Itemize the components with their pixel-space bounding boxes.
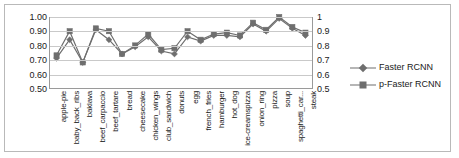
x-axis-tick-label: egg: [191, 91, 200, 104]
x-axis-tick-label: french_fries: [204, 91, 213, 130]
data-point-marker: [290, 24, 295, 29]
square-marker-icon: [350, 80, 376, 90]
x-axis-category-labels: apple-piebaby_back_ribsbaklavabeef_carpa…: [49, 91, 313, 158]
x-axis-tick-label: chicken_wings: [151, 91, 160, 140]
x-axis-tick-label: bread: [125, 91, 134, 110]
x-axis-tick-label: hot_dog: [230, 91, 239, 119]
x-axis-tick-label: hamburger: [217, 91, 226, 128]
y-axis-right-tick: 0.8: [317, 41, 330, 50]
data-point-marker: [119, 51, 124, 56]
series-lines: [50, 17, 312, 88]
y-axis-right-tick: 0.9: [317, 27, 330, 36]
y-axis-left-tick: 0.80: [29, 41, 47, 50]
x-axis-tick-label: club_sandwich: [164, 91, 173, 141]
data-point-marker: [198, 37, 203, 42]
y-axis-right-tick: 0.7: [317, 56, 330, 65]
data-point-marker: [54, 53, 59, 58]
gridline: [50, 31, 312, 32]
legend-label: Faster RCNN: [379, 63, 433, 72]
y-axis-left-tick: 0.50: [29, 85, 47, 94]
y-axis-right-tick: 1: [317, 13, 322, 22]
chart-legend: Faster RCNN p-Faster RCNN: [350, 59, 441, 93]
x-axis-tick-label: soup: [283, 91, 292, 108]
y-axis-right-tick: 0.6: [317, 70, 330, 79]
x-axis-tick-label: onion_ring: [257, 91, 266, 126]
data-point-marker: [237, 33, 242, 38]
data-point-marker: [93, 26, 98, 31]
data-point-marker: [250, 20, 255, 25]
y-axis-left-tick: 1.00: [29, 13, 47, 22]
gridline: [50, 46, 312, 47]
x-axis-tick-label: beef_carpaccio: [98, 91, 107, 142]
x-axis-tick-label: steak: [309, 91, 318, 109]
chart-container: 1.000.900.800.700.600.50 10.90.80.70.60.…: [4, 4, 451, 152]
gridline: [50, 60, 312, 61]
legend-item-p-faster-rcnn: p-Faster RCNN: [350, 76, 441, 93]
gridline: [50, 17, 312, 18]
x-axis-tick-label: ice-creamspizza: [243, 91, 252, 146]
diamond-marker-icon: [350, 63, 376, 73]
x-axis-tick-label: donuts: [177, 91, 186, 114]
legend-item-faster-rcnn: Faster RCNN: [350, 59, 441, 76]
data-point-marker: [159, 47, 164, 52]
x-axis-tick-label: apple-pie: [59, 91, 68, 122]
x-axis-tick-label: spaghetti_car...: [296, 91, 305, 142]
y-axis-left-tick: 0.90: [29, 27, 47, 36]
y-axis-left-tick: 0.70: [29, 56, 47, 65]
x-axis-tick-label: cheesecake: [138, 91, 147, 132]
x-axis-tick-label: baklava: [85, 91, 94, 117]
x-axis-tick-label: pizza: [270, 91, 279, 109]
series-line: [57, 17, 306, 62]
x-axis-tick-label: baby_back_ribs: [72, 91, 81, 144]
legend-label: p-Faster RCNN: [379, 80, 441, 89]
plot-area: [49, 17, 313, 89]
gridline: [50, 75, 312, 76]
y-axis-right-tick: 0.5: [317, 85, 330, 94]
y-axis-left-tick: 0.60: [29, 70, 47, 79]
x-axis-tick-label: beef_tartare: [111, 91, 120, 132]
